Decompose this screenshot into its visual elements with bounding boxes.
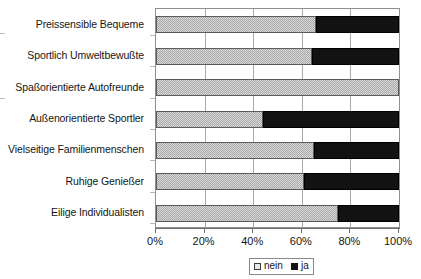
legend-label-nein: nein xyxy=(264,260,283,272)
bar-segment-ja xyxy=(316,16,399,33)
bar-segment-nein xyxy=(156,79,399,96)
bar-row xyxy=(156,111,399,128)
x-tick-mark xyxy=(252,229,253,233)
x-tick-label: 40% xyxy=(229,235,275,248)
swatch-ja-icon xyxy=(291,263,298,270)
stacked-bar-chart: Preissensible BequemeSportlich Umweltbew… xyxy=(0,0,421,279)
x-tick-mark xyxy=(155,229,156,233)
bar-row xyxy=(156,205,399,222)
plot-area xyxy=(155,8,400,228)
bar-segment-ja xyxy=(338,205,399,222)
legend-entry-nein: nein xyxy=(254,260,283,272)
x-tick-label: 80% xyxy=(326,235,372,248)
x-tick-mark xyxy=(301,229,302,233)
x-tick-label: 20% xyxy=(181,235,227,248)
category-axis: Preissensible BequemeSportlich Umweltbew… xyxy=(0,8,150,228)
x-tick-label: 100% xyxy=(375,235,421,248)
category-tick xyxy=(150,160,155,161)
bar-segment-nein xyxy=(156,173,304,190)
category-tick xyxy=(150,223,155,224)
bar-segment-nein xyxy=(156,48,312,65)
category-label: Außenorientierte Sportler xyxy=(0,112,144,124)
bar-row xyxy=(156,48,399,65)
bar-segment-ja xyxy=(314,142,399,159)
category-label: Eilige Individualisten xyxy=(0,206,144,218)
x-tick-label: 0% xyxy=(132,235,178,248)
swatch-nein-icon xyxy=(254,263,261,270)
bar-row xyxy=(156,79,399,96)
chart-legend: nein ja xyxy=(249,258,314,275)
category-tick xyxy=(150,192,155,193)
x-tick-mark xyxy=(349,229,350,233)
category-label: Preissensible Bequeme xyxy=(0,18,144,30)
category-label: Ruhige Genießer xyxy=(0,175,144,187)
category-tick xyxy=(150,129,155,130)
legend-label-ja: ja xyxy=(301,260,309,272)
bar-segment-nein xyxy=(156,205,338,222)
x-tick-label: 60% xyxy=(278,235,324,248)
bar-row xyxy=(156,173,399,190)
bar-segment-ja xyxy=(304,173,399,190)
value-axis-line xyxy=(155,228,400,229)
category-label: Sportlich Umweltbewußte xyxy=(0,49,144,61)
bar-segment-nein xyxy=(156,111,263,128)
x-tick-mark xyxy=(398,229,399,233)
category-tick xyxy=(150,98,155,99)
category-label: Spaßorientierte Autofreunde xyxy=(0,81,144,93)
bar-segment-nein xyxy=(156,142,314,159)
bar-segment-ja xyxy=(312,48,399,65)
x-tick-mark xyxy=(204,229,205,233)
bar-row xyxy=(156,142,399,159)
category-tick xyxy=(150,66,155,67)
category-tick xyxy=(150,35,155,36)
bar-row xyxy=(156,16,399,33)
legend-entry-ja: ja xyxy=(291,260,309,272)
bar-segment-nein xyxy=(156,16,316,33)
bar-segment-ja xyxy=(263,111,399,128)
category-label: Vielseitige Familienmenschen xyxy=(0,143,144,155)
